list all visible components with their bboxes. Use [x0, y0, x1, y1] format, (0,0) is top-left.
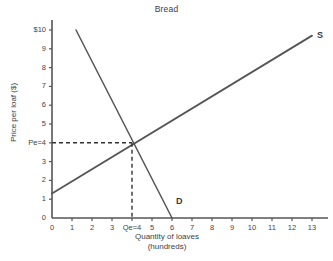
y-tick-label: $10 — [6, 25, 46, 34]
y-tick-label: 6 — [6, 100, 46, 109]
y-tick-label: 2 — [6, 175, 46, 184]
y-tick-label: 1 — [6, 194, 46, 203]
y-tick-label: Pe=4 — [6, 138, 46, 147]
y-tick-label: 0 — [6, 213, 46, 222]
demand-curve — [76, 30, 172, 218]
y-tick-label: 9 — [6, 44, 46, 53]
demand-curve-label: D — [176, 196, 183, 206]
plot-area — [0, 0, 333, 261]
y-tick-label: 7 — [6, 81, 46, 90]
y-tick-label: 8 — [6, 63, 46, 72]
x-tick-label: 13 — [297, 223, 327, 232]
y-tick-label: 3 — [6, 157, 46, 166]
y-tick-label: 5 — [6, 119, 46, 128]
supply-curve-label: S — [317, 30, 323, 40]
supply-demand-chart: Bread Price per loaf ($) Quantity of loa… — [0, 0, 333, 261]
